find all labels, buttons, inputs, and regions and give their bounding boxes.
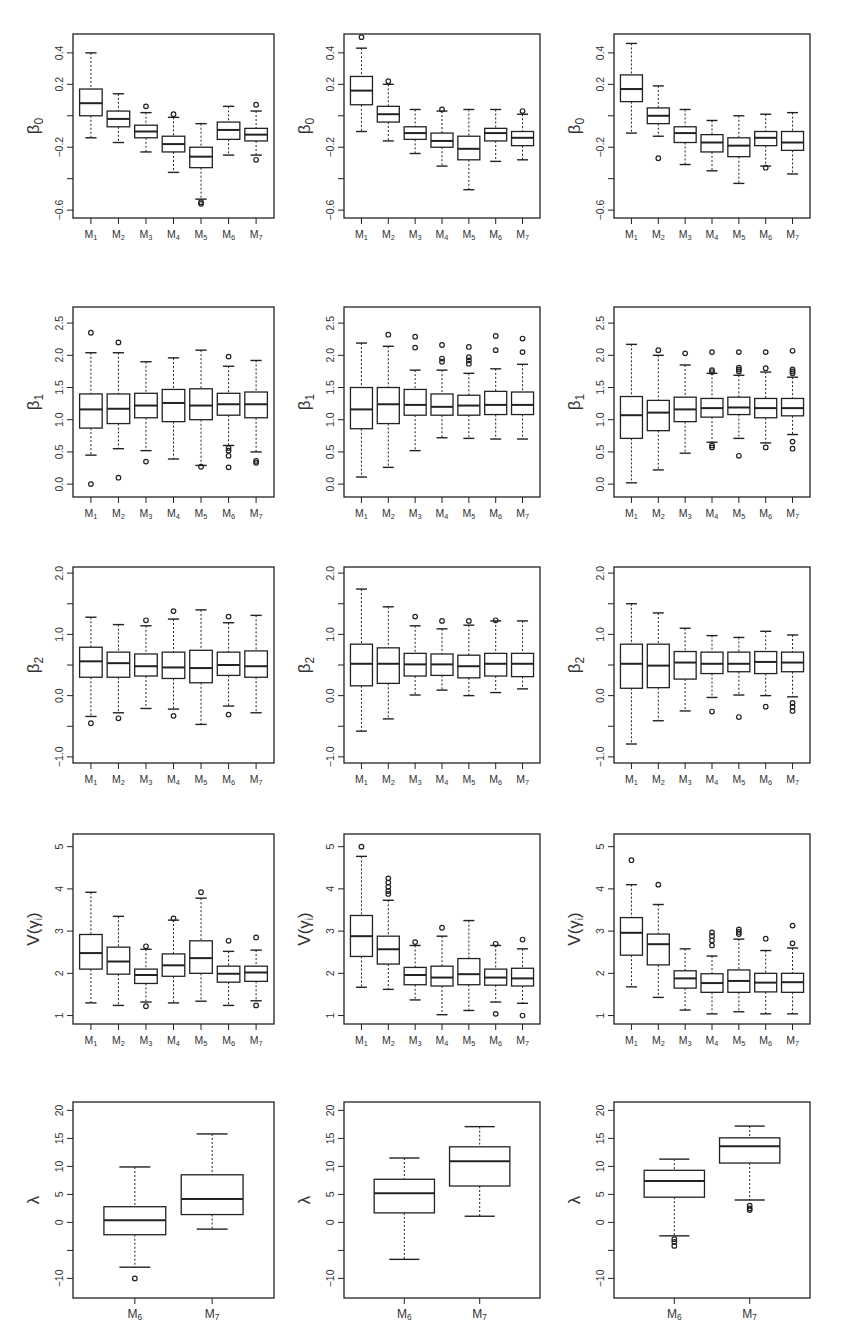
x-tick-label: M7 (472, 1307, 487, 1322)
box-m3 (404, 614, 426, 695)
y-tick-label: 2.0 (324, 348, 336, 363)
y-tick-label: 1.5 (53, 380, 65, 395)
x-tick-label: M6 (759, 773, 772, 787)
x-tick-label: M1 (625, 507, 638, 521)
box-m4 (431, 107, 453, 166)
x-tick-label: M5 (462, 228, 475, 242)
svg-text:V(γi): V(γi) (24, 912, 44, 945)
box-m2 (107, 340, 130, 480)
x-tick-label: M6 (759, 1034, 772, 1048)
boxplot-panel-r2-c2: 0.00.51.01.52.02.5β1M1M2M3M4M5M6M7 (282, 301, 546, 539)
y-tick-label: 4 (53, 886, 65, 892)
box-m7 (512, 937, 534, 1018)
box-m2 (377, 607, 399, 719)
box-m1 (350, 343, 372, 477)
x-tick-label: M1 (355, 228, 368, 242)
box-m7 (512, 336, 534, 439)
outlier-point (386, 332, 391, 337)
x-tick-label: M6 (489, 773, 502, 787)
svg-text:β2: β2 (295, 656, 317, 673)
x-tick-label: M4 (436, 228, 449, 242)
y-tick-label: 1.0 (324, 412, 336, 427)
boxplot-panel-r1-c1: −0.6−0.20.20.4β0M1M2M3M4M5M6M7 (11, 28, 280, 260)
outlier-point (710, 709, 715, 714)
x-tick-label: M6 (222, 507, 235, 521)
x-tick-label: M2 (382, 1034, 395, 1048)
x-tick-label: M2 (382, 773, 395, 787)
y-tick-label: 5 (53, 844, 65, 850)
outlier-point (440, 619, 445, 624)
box-m5 (728, 350, 750, 458)
y-tick-label: 1 (594, 1012, 606, 1018)
svg-text:β1: β1 (295, 393, 317, 410)
y-tick-label: 10 (53, 1160, 65, 1172)
boxplot-panel-r5-c1: −1005101520λM6M7 (11, 1096, 280, 1339)
y-axis-label: V(γi) (565, 912, 585, 945)
outlier-point (710, 943, 715, 948)
y-tick-label: 3 (53, 928, 65, 934)
x-tick-label: M6 (667, 1307, 682, 1322)
y-tick-label: 2.5 (324, 316, 336, 331)
x-tick-label: M2 (112, 507, 125, 521)
x-tick-label: M7 (205, 1307, 220, 1322)
y-tick-label: −0.2 (594, 137, 606, 158)
boxplot-panel-r3-c2: −1.00.01.02.0β2M1M2M3M4M5M6M7 (282, 561, 546, 805)
outlier-point (254, 935, 259, 940)
box-m3 (674, 109, 696, 164)
outlier-point (144, 459, 149, 464)
box-m6 (755, 936, 777, 1013)
y-tick-label: 0.0 (53, 477, 65, 492)
outlier-point (171, 112, 176, 117)
outlier-point (199, 890, 204, 895)
x-tick-label: M5 (732, 228, 745, 242)
x-tick-label: M1 (625, 773, 638, 787)
x-tick-label: M3 (140, 1034, 153, 1048)
box-m7 (782, 113, 804, 174)
box-m7 (245, 102, 268, 162)
y-tick-label: 1.5 (324, 380, 336, 395)
y-tick-label: 5 (324, 844, 336, 850)
outlier-point (254, 102, 259, 107)
box-m4 (431, 343, 453, 438)
x-tick-label: M4 (436, 1034, 449, 1048)
x-tick-label: M6 (222, 1034, 235, 1048)
outlier-point (226, 614, 231, 619)
svg-text:β0: β0 (565, 117, 587, 134)
outlier-point (440, 925, 445, 930)
y-axis: −1005101520 (594, 1104, 614, 1287)
box-m2 (377, 79, 399, 141)
outlier-point (629, 858, 634, 863)
box-m3 (404, 334, 426, 450)
x-axis: M1M2M3M4M5M6M7 (84, 763, 262, 787)
box-m3 (135, 944, 158, 1009)
x-tick-label: M1 (355, 507, 368, 521)
plot-frame (73, 1102, 274, 1298)
y-tick-label: 2 (324, 970, 336, 976)
y-tick-label: 2.5 (53, 316, 65, 331)
y-tick-label: 0.0 (324, 688, 336, 703)
x-axis: M6M7 (667, 1298, 757, 1322)
outlier-point (520, 1013, 525, 1018)
outlier-point (89, 721, 94, 726)
x-tick-label: M3 (679, 507, 692, 521)
outlier-point (520, 937, 525, 942)
box-m6 (755, 631, 777, 709)
x-axis: M1M2M3M4M5M6M7 (625, 1024, 799, 1048)
x-tick-label: M4 (436, 507, 449, 521)
y-axis-label: β1 (295, 393, 317, 410)
x-axis: M1M2M3M4M5M6M7 (84, 497, 262, 521)
boxplot-panel-r2-c3: 0.00.51.01.52.02.5β1M1M2M3M4M5M6M7 (552, 301, 816, 539)
outlier-point (737, 715, 742, 720)
outlier-point (226, 712, 231, 717)
y-tick-label: −0.6 (594, 200, 606, 221)
x-axis: M1M2M3M4M5M6M7 (625, 497, 799, 521)
y-tick-label: −10 (53, 1269, 65, 1287)
outlier-point (763, 704, 768, 709)
box-m5 (458, 109, 480, 189)
x-tick-label: M1 (625, 1034, 638, 1048)
x-tick-label: M5 (195, 507, 208, 521)
y-tick-label: −10 (594, 1269, 606, 1287)
outlier-point (493, 1012, 498, 1017)
outlier-point (790, 941, 795, 946)
x-tick-label: M6 (489, 1034, 502, 1048)
